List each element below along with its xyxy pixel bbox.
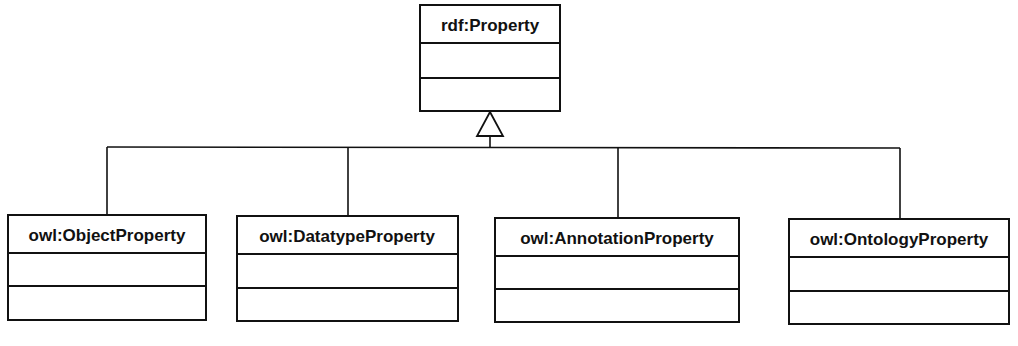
class-name: rdf:Property xyxy=(441,16,540,35)
class-owl-ontology-property[interactable]: owl:OntologyProperty xyxy=(789,219,1009,324)
horizontal-bus-line xyxy=(107,147,900,148)
class-owl-datatype-property[interactable]: owl:DatatypeProperty xyxy=(237,216,458,321)
class-owl-annotation-property[interactable]: owl:AnnotationProperty xyxy=(495,218,739,322)
class-name: owl:DatatypeProperty xyxy=(259,227,435,246)
class-owl-object-property[interactable]: owl:ObjectProperty xyxy=(8,215,206,320)
uml-diagram: rdf:Property owl:ObjectProperty owl:Data… xyxy=(0,0,1018,346)
generalization-connectors xyxy=(107,136,900,219)
class-rdf-property[interactable]: rdf:Property xyxy=(420,5,560,111)
generalization-arrow-icon xyxy=(477,112,503,136)
class-name: owl:ObjectProperty xyxy=(29,226,186,245)
class-name: owl:OntologyProperty xyxy=(810,230,989,249)
class-name: owl:AnnotationProperty xyxy=(520,229,714,248)
